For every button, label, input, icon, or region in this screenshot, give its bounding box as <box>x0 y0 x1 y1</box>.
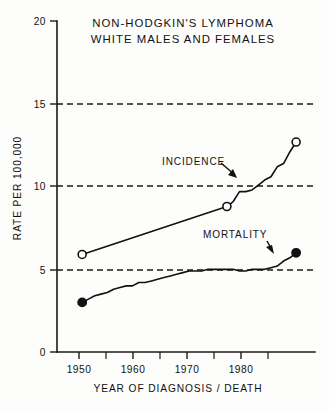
x-axis-ticks <box>79 352 268 359</box>
mortality-series-markers <box>78 249 300 307</box>
incidence-marker-1950 <box>78 250 86 258</box>
incidence-marker-1984 <box>292 138 300 146</box>
y-axis-title: RATE PER 100,000 <box>12 136 23 240</box>
non-hodgkin-lymphoma-line-chart: NON-HODGKIN'S LYMPHOMA WHITE MALES AND F… <box>0 0 329 411</box>
x-axis-title: YEAR OF DIAGNOSIS / DEATH <box>94 383 263 394</box>
chart-title-line-1: NON-HODGKIN'S LYMPHOMA <box>92 17 274 29</box>
y-tick-label-0: 0 <box>40 347 46 358</box>
gridlines <box>57 104 315 270</box>
chart-figure: NON-HODGKIN'S LYMPHOMA WHITE MALES AND F… <box>0 0 329 411</box>
y-tick-label-10: 10 <box>34 181 46 192</box>
y-tick-label-15: 15 <box>34 99 46 110</box>
mortality-series-line <box>82 253 296 303</box>
mortality-arrow-head <box>266 245 274 254</box>
x-tick-label-1970: 1970 <box>175 364 200 375</box>
x-tick-label-1980: 1980 <box>229 364 254 375</box>
x-tick-label-1950: 1950 <box>67 364 92 375</box>
chart-title-line-2: WHITE MALES AND FEMALES <box>91 33 275 45</box>
y-axis-ticks <box>50 21 57 352</box>
y-tick-label-5: 5 <box>40 265 46 276</box>
x-tick-label-1960: 1960 <box>121 364 146 375</box>
incidence-annotation-label: INCIDENCE <box>162 156 225 167</box>
y-tick-label-20: 20 <box>34 16 46 27</box>
mortality-annotation-label: MORTALITY <box>203 229 267 240</box>
mortality-marker-1984 <box>292 249 300 257</box>
incidence-marker-1973 <box>223 203 231 211</box>
mortality-marker-1950 <box>78 298 86 306</box>
mortality-annotation: MORTALITY <box>203 229 274 254</box>
incidence-annotation: INCIDENCE <box>162 156 237 178</box>
